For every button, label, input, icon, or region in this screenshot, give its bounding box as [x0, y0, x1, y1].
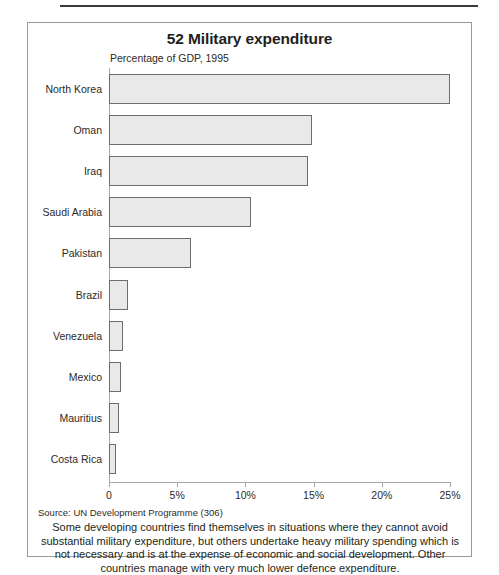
plot-area: North KoreaOmanIraqSaudi ArabiaPakistanB… — [109, 68, 450, 483]
chart-subtitle: Percentage of GDP, 1995 — [110, 52, 229, 64]
x-axis-tick — [177, 482, 178, 487]
bar-category-label: Mauritius — [0, 403, 109, 433]
bar — [109, 321, 123, 351]
bar — [109, 197, 251, 227]
x-axis-tick — [382, 482, 383, 487]
chart-title: 52 Military expenditure — [28, 30, 471, 48]
x-axis-tick-label: 5% — [170, 489, 185, 501]
bar-category-label: Venezuela — [0, 321, 109, 351]
bar-category-label: Brazil — [0, 280, 109, 310]
bar — [109, 280, 128, 310]
bar — [109, 156, 308, 186]
bar-row: Iraq — [109, 150, 450, 191]
x-axis-tick-label: 15% — [303, 489, 324, 501]
x-axis-tick-label: 20% — [371, 489, 392, 501]
figure-box: 52 Military expenditure Percentage of GD… — [27, 22, 472, 557]
bar — [109, 403, 119, 433]
figure-caption: Some developing countries find themselve… — [38, 521, 462, 575]
bar-row: Venezuela — [109, 315, 450, 356]
bar-row: Costa Rica — [109, 438, 450, 479]
x-axis-tick-label: 0 — [106, 489, 112, 501]
bar-row: Mexico — [109, 356, 450, 397]
bar-row: Saudi Arabia — [109, 191, 450, 232]
bar — [109, 444, 116, 474]
bar — [109, 115, 312, 145]
x-axis-tick — [245, 482, 246, 487]
x-axis-tick — [109, 482, 110, 487]
bar — [109, 362, 121, 392]
bar-row: Brazil — [109, 274, 450, 315]
page-top-rule — [60, 5, 478, 7]
bar-category-label: Oman — [0, 115, 109, 145]
x-axis-line — [109, 482, 450, 483]
source-note: Source: UN Development Programme (306) — [38, 507, 223, 518]
x-axis-tick — [314, 482, 315, 487]
bar — [109, 238, 191, 268]
bar-category-label: Mexico — [0, 362, 109, 392]
x-axis-tick — [450, 482, 451, 487]
bar-row: North Korea — [109, 68, 450, 109]
bar — [109, 74, 450, 104]
x-axis-tick-label: 10% — [235, 489, 256, 501]
bar-category-label: Costa Rica — [0, 444, 109, 474]
x-axis-tick-label: 25% — [439, 489, 460, 501]
bar-category-label: Iraq — [0, 156, 109, 186]
bar-row: Pakistan — [109, 232, 450, 273]
bar-row: Oman — [109, 109, 450, 150]
bar-category-label: North Korea — [0, 74, 109, 104]
bar-category-label: Saudi Arabia — [0, 197, 109, 227]
bar-row: Mauritius — [109, 397, 450, 438]
bar-category-label: Pakistan — [0, 238, 109, 268]
